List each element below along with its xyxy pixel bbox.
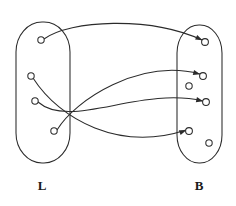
set-outline-B xyxy=(177,25,222,163)
set-label-L: L xyxy=(38,178,47,193)
node-b3 xyxy=(186,83,192,89)
node-b4 xyxy=(203,99,210,106)
node-b1 xyxy=(202,39,209,46)
node-b6 xyxy=(206,140,212,146)
node-l3 xyxy=(32,98,38,104)
set-outlines xyxy=(16,22,222,163)
node-l1 xyxy=(38,37,44,43)
set-outline-L xyxy=(16,22,70,163)
set-label-B: B xyxy=(195,178,204,193)
mapping-diagram: L B xyxy=(0,0,236,206)
nodes xyxy=(28,37,212,146)
edge-l4-to-b2 xyxy=(57,70,200,130)
edges xyxy=(33,23,204,137)
node-l4 xyxy=(51,128,57,134)
set-labels: L B xyxy=(38,178,204,193)
node-b2 xyxy=(200,73,207,80)
mapping-diagram-canvas: L B xyxy=(0,0,236,206)
edge-l1-to-b1 xyxy=(44,23,202,40)
node-l2 xyxy=(28,73,34,79)
node-b5 xyxy=(186,128,193,135)
